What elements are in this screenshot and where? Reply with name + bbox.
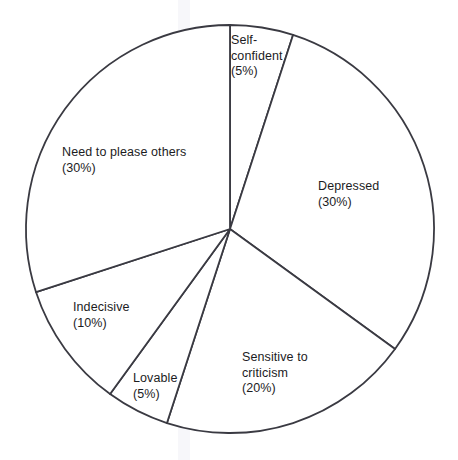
slice-label-indecisive: Indecisive (10%): [73, 300, 130, 331]
slice-label-depressed: Depressed (30%): [318, 179, 379, 210]
pie-chart-canvas: [0, 0, 458, 460]
slice-label-self-confident: Self- confident (5%): [231, 33, 283, 80]
pie-chart-figure: Self- confident (5%) Depressed (30%) Sen…: [0, 0, 458, 460]
slice-label-sensitive-to-criticism: Sensitive to criticism (20%): [242, 350, 308, 397]
pie-slices-group: [26, 25, 434, 433]
slice-label-need-to-please-others: Need to please others (30%): [62, 145, 186, 176]
slice-label-lovable: Lovable (5%): [133, 371, 178, 402]
